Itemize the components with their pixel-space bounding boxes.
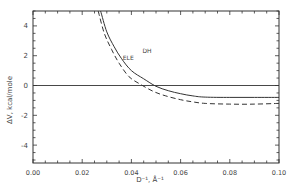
plot-frame bbox=[33, 11, 279, 163]
y-tick-label: -2 bbox=[21, 112, 28, 120]
x-tick-label: 0.06 bbox=[173, 169, 187, 177]
plot-border bbox=[33, 11, 279, 163]
y-tick-label: 4 bbox=[24, 22, 29, 30]
x-tick-label: 0.08 bbox=[223, 169, 237, 177]
x-tick-label: 0.00 bbox=[26, 169, 40, 177]
chart-canvas: DHELE 0.000.020.040.060.080.10 420-2-4 D… bbox=[0, 0, 293, 187]
y-tick-label: -4 bbox=[21, 142, 29, 150]
x-tick-label: 0.02 bbox=[75, 169, 89, 177]
series-labels: DHELE bbox=[123, 47, 152, 61]
x-tick-label: 0.10 bbox=[272, 169, 286, 177]
series-label-dh: DH bbox=[142, 47, 151, 54]
y-tick-labels: 420-2-4 bbox=[21, 22, 29, 149]
y-axis-label: ΔV, kcal/mole bbox=[6, 76, 14, 124]
x-axis-label: D⁻¹, Å⁻¹ bbox=[136, 175, 164, 184]
y-tick-label: 2 bbox=[24, 52, 28, 60]
y-tick-label: 0 bbox=[24, 82, 28, 90]
axis-ticks bbox=[33, 11, 279, 163]
series-label-ele: ELE bbox=[123, 54, 134, 61]
